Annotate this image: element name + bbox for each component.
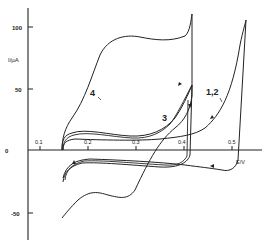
y-tick-label: -50 [11, 211, 20, 217]
cyclic-voltammogram-chart: 100 50 0 -50 I/µA 0.1 0.2 0.3 0.4 0.5 E/… [0, 0, 271, 243]
curve-4 [62, 14, 192, 218]
y-axis-label: I/µA [8, 57, 19, 63]
arrow-icon [178, 82, 182, 86]
curve-label-3: 3 [162, 113, 167, 123]
curve-1-2 [63, 20, 246, 178]
y-tick-label: 50 [15, 87, 22, 93]
curve-label-1-2: 1,2 [206, 87, 219, 97]
arrow-icon [210, 115, 214, 119]
x-tick-label: 0.1 [35, 139, 43, 145]
x-tick-label: 0.5 [228, 139, 236, 145]
y-tick-label: 0 [5, 148, 9, 154]
chart-canvas: 100 50 0 -50 I/µA 0.1 0.2 0.3 0.4 0.5 E/… [0, 0, 271, 243]
y-ticks: 100 50 0 -50 [5, 25, 33, 217]
x-tick-label: 0.4 [178, 139, 186, 145]
arrow-icon [210, 164, 214, 168]
curve-label-4: 4 [90, 88, 95, 98]
y-tick-label: 100 [12, 25, 23, 31]
